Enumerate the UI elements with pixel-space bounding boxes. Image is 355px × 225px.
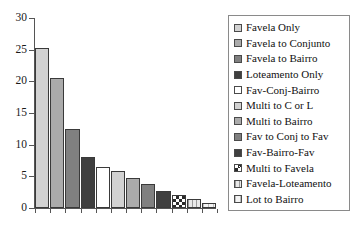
bar-5 bbox=[96, 167, 110, 208]
y-axis-tick-label: 30 bbox=[0, 12, 27, 24]
bar-4 bbox=[81, 157, 95, 208]
legend-swatch-icon bbox=[234, 117, 242, 125]
legend-item-3[interactable]: Favela to Bairro bbox=[234, 51, 346, 67]
legend-item-1[interactable]: Favela Only bbox=[234, 20, 346, 36]
x-axis-tick bbox=[35, 209, 36, 213]
legend-swatch-icon bbox=[234, 195, 242, 203]
legend-item-label: Lot to Bairro bbox=[246, 194, 303, 205]
x-axis-tick bbox=[65, 209, 66, 213]
legend-item-label: Multi to Favela bbox=[246, 163, 314, 174]
y-axis-tick bbox=[29, 145, 34, 146]
y-axis-tick-label: 5 bbox=[0, 170, 27, 182]
x-axis-tick bbox=[172, 209, 173, 213]
x-axis-tick bbox=[126, 209, 127, 213]
y-axis-tick bbox=[29, 18, 34, 19]
legend-swatch-icon bbox=[234, 180, 242, 188]
legend-swatch-icon bbox=[234, 86, 242, 94]
y-axis-tick bbox=[29, 208, 34, 209]
legend-item-label: Favela Only bbox=[246, 22, 300, 33]
bar-9 bbox=[156, 191, 170, 208]
legend-item-5[interactable]: Fav-Conj-Bairro bbox=[234, 82, 346, 98]
x-axis-tick bbox=[96, 209, 97, 213]
legend-item-2[interactable]: Favela to Conjunto bbox=[234, 36, 346, 52]
y-axis-tick bbox=[29, 113, 34, 114]
legend-item-4[interactable]: Loteamento Only bbox=[234, 67, 346, 83]
legend-item-7[interactable]: Multi to Bairro bbox=[234, 114, 346, 130]
x-axis-tick bbox=[111, 209, 112, 213]
bar-3 bbox=[65, 129, 79, 208]
bar-7 bbox=[126, 178, 140, 208]
bar-2 bbox=[50, 78, 64, 208]
y-axis-tick-label: 20 bbox=[0, 75, 27, 87]
legend-item-11[interactable]: Favela-Loteamento bbox=[234, 176, 346, 192]
bar-11 bbox=[187, 199, 201, 209]
legend-item-label: Favela to Bairro bbox=[246, 53, 317, 64]
bar-8 bbox=[141, 184, 155, 208]
legend-item-label: Multi to C or L bbox=[246, 100, 313, 111]
x-axis-tick bbox=[217, 209, 218, 213]
y-axis-tick bbox=[29, 81, 34, 82]
y-axis-tick bbox=[29, 50, 34, 51]
legend-item-label: Fav-Conj-Bairro bbox=[246, 85, 319, 96]
legend-swatch-icon bbox=[234, 71, 242, 79]
y-axis-tick-label: 10 bbox=[0, 139, 27, 151]
legend-swatch-icon bbox=[234, 133, 242, 141]
legend-item-10[interactable]: Multi to Favela bbox=[234, 160, 346, 176]
bar-12 bbox=[202, 203, 216, 208]
legend-swatch-icon bbox=[234, 55, 242, 63]
legend-item-label: Multi to Bairro bbox=[246, 116, 313, 127]
y-axis-tick-label: 15 bbox=[0, 107, 27, 119]
chart-legend: Favela OnlyFavela to ConjuntoFavela to B… bbox=[228, 15, 350, 211]
bar-10 bbox=[172, 195, 186, 208]
bar-1 bbox=[35, 48, 49, 208]
x-axis-line bbox=[34, 208, 216, 209]
legend-item-label: Fav to Conj to Fav bbox=[246, 131, 329, 142]
legend-item-8[interactable]: Fav to Conj to Fav bbox=[234, 129, 346, 145]
plot-area: 051015202530 bbox=[0, 0, 225, 225]
y-axis-tick-label: 0 bbox=[0, 202, 27, 214]
legend-swatch-icon bbox=[234, 102, 242, 110]
y-axis-tick-label: 25 bbox=[0, 44, 27, 56]
legend-swatch-icon bbox=[234, 149, 242, 157]
legend-item-label: Favela-Loteamento bbox=[246, 178, 332, 189]
legend-item-label: Loteamento Only bbox=[246, 69, 323, 80]
x-axis-tick bbox=[50, 209, 51, 213]
x-axis-tick bbox=[187, 209, 188, 213]
legend-item-label: Favela to Conjunto bbox=[246, 38, 330, 49]
legend-item-12[interactable]: Lot to Bairro bbox=[234, 192, 346, 208]
legend-swatch-icon bbox=[234, 164, 242, 172]
legend-item-label: Fav-Bairro-Fav bbox=[246, 147, 314, 158]
legend-item-9[interactable]: Fav-Bairro-Fav bbox=[234, 145, 346, 161]
x-axis-tick bbox=[141, 209, 142, 213]
bar-chart: 051015202530 Favela OnlyFavela to Conjun… bbox=[0, 0, 355, 225]
bar-series bbox=[35, 18, 217, 208]
x-axis-tick bbox=[81, 209, 82, 213]
x-axis-tick bbox=[202, 209, 203, 213]
x-axis-tick bbox=[156, 209, 157, 213]
bar-6 bbox=[111, 171, 125, 208]
legend-swatch-icon bbox=[234, 39, 242, 47]
legend-swatch-icon bbox=[234, 24, 242, 32]
legend-item-6[interactable]: Multi to C or L bbox=[234, 98, 346, 114]
y-axis-tick bbox=[29, 176, 34, 177]
